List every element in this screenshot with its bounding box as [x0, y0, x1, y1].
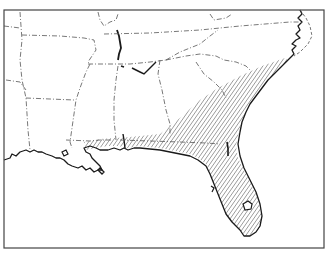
tennessee-river-b	[121, 66, 124, 67]
range-map	[0, 0, 331, 256]
map-background	[0, 0, 331, 256]
